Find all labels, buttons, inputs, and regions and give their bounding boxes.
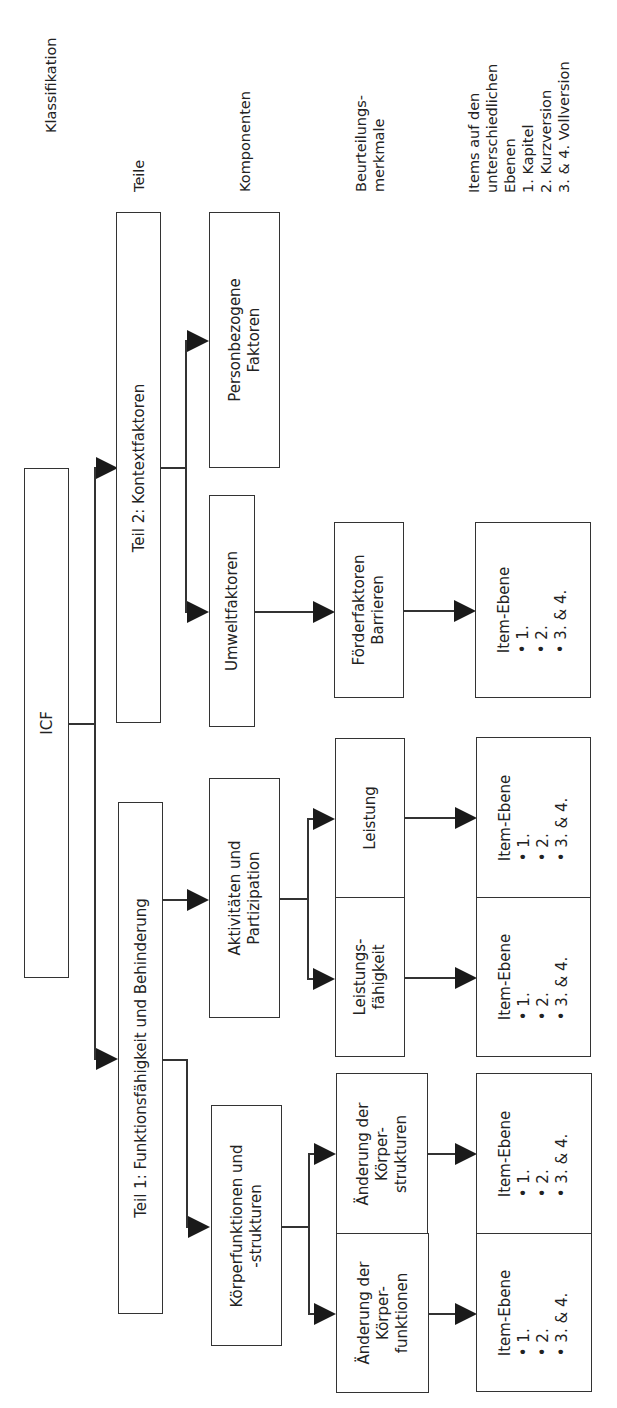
item-level: 1.	[515, 992, 533, 1020]
arrow-icon	[455, 807, 477, 829]
header-beurteilungsmerkmale: Beurteilungs- merkmale	[352, 95, 388, 192]
personbezogene-label: Personbezogene Faktoren	[226, 278, 264, 402]
icf-box: ICF	[24, 468, 69, 978]
arrow-icon	[96, 1048, 118, 1070]
arrow-icon	[313, 601, 335, 623]
arrow-icon	[187, 330, 209, 352]
arrow-icon	[454, 600, 476, 622]
item-level: 3. & 4.	[552, 590, 570, 653]
item-ebene-content: Item-Ebene 1. 2. 3. & 4.	[495, 567, 571, 654]
arrow-icon	[314, 1143, 336, 1165]
item-level: 2.	[534, 1169, 552, 1197]
aenderung-koerperfunktionen-box: Änderung der Körper- funktionen	[336, 1233, 429, 1393]
item-ebene-box-funktionen: Item-Ebene 1. 2. 3. & 4.	[476, 1233, 592, 1392]
item-ebene-title: Item-Ebene	[496, 934, 514, 1021]
arrow-icon	[96, 457, 118, 479]
connector	[404, 610, 454, 612]
connector	[429, 1313, 455, 1315]
leistung-box: Leistung	[335, 738, 405, 898]
header-klassifikation: Klassifikation	[42, 38, 60, 134]
connector	[186, 1059, 188, 1227]
foerderfaktoren-box: Förderfaktoren Barrieren	[334, 522, 404, 698]
item-level: 2.	[534, 1328, 552, 1356]
item-level: 2.	[533, 625, 551, 653]
arrow-icon	[313, 968, 335, 990]
teil2-box: Teil 2: Kontextfaktoren	[116, 212, 161, 723]
arrow-icon	[455, 1303, 477, 1325]
item-ebene-box-leistung: Item-Ebene 1. 2. 3. & 4.	[476, 737, 591, 898]
connector	[94, 467, 96, 1059]
connector	[428, 1153, 455, 1155]
koerperfunktionen-label: Körperfunktionen und -strukturen	[228, 1144, 266, 1307]
umweltfaktoren-box: Umweltfaktoren	[209, 495, 255, 727]
connector	[282, 1226, 309, 1228]
item-level: 3. & 4.	[553, 1292, 571, 1355]
koerperfunktionen-strukturen-box: Körperfunktionen und -strukturen	[211, 1105, 282, 1346]
aktivitaeten-partizipation-box: Aktivitäten und Partizipation	[209, 778, 280, 1018]
arrow-icon	[313, 808, 335, 830]
item-ebene-content: Item-Ebene 1. 2. 3. & 4.	[496, 1110, 572, 1197]
connector	[163, 899, 187, 901]
item-level: 3. & 4.	[553, 797, 571, 860]
item-level: 3. & 4.	[553, 957, 571, 1020]
connector	[280, 898, 308, 900]
arrow-icon	[188, 1216, 210, 1238]
item-level: 2.	[534, 992, 552, 1020]
item-level: 1.	[514, 625, 532, 653]
connector	[69, 723, 94, 725]
connector	[255, 611, 313, 613]
item-level: 2.	[534, 833, 552, 861]
leistung-label: Leistung	[361, 786, 380, 850]
arrow-icon	[455, 1143, 477, 1165]
item-level: 1.	[515, 833, 533, 861]
item-ebene-content: Item-Ebene 1. 2. 3. & 4.	[496, 934, 572, 1021]
item-level: 1.	[515, 1328, 533, 1356]
teil2-label: Teil 2: Kontextfaktoren	[129, 383, 148, 551]
item-ebene-content: Item-Ebene 1. 2. 3. & 4.	[496, 774, 572, 861]
item-ebene-box-umwelt: Item-Ebene 1. 2. 3. & 4.	[475, 522, 591, 698]
leistungsfaehigkeit-label: Leistungs- fähigkeit	[351, 939, 389, 1016]
connector	[185, 340, 187, 612]
item-ebene-title: Item-Ebene	[496, 1110, 514, 1197]
header-items: Items auf den unterschiedlichen Ebenen 1…	[465, 61, 573, 193]
connector	[308, 1153, 310, 1314]
foerderfaktoren-label: Förderfaktoren Barrieren	[350, 555, 388, 666]
arrow-icon	[187, 889, 209, 911]
item-ebene-box-strukturen: Item-Ebene 1. 2. 3. & 4.	[476, 1073, 592, 1234]
item-ebene-title: Item-Ebene	[495, 567, 513, 654]
personbezogene-faktoren-box: Personbezogene Faktoren	[209, 212, 280, 468]
umweltfaktoren-label: Umweltfaktoren	[223, 551, 242, 671]
header-teile: Teile	[130, 160, 148, 192]
connector	[405, 817, 455, 819]
item-level: 1.	[515, 1169, 533, 1197]
arrow-icon	[314, 1303, 336, 1325]
connector	[163, 1059, 187, 1061]
connector	[307, 818, 309, 979]
aenderung-funktionen-label: Änderung der Körper- funktionen	[354, 1262, 411, 1365]
icf-label: ICF	[37, 711, 56, 735]
connector	[161, 467, 186, 469]
teil1-label: Teil 1: Funktionsfähigkeit und Behinderu…	[131, 898, 150, 1218]
aenderung-koerperstrukturen-box: Änderung der Körper- strukturen	[336, 1073, 428, 1234]
connector	[405, 977, 455, 979]
arrow-icon	[455, 967, 477, 989]
item-ebene-title: Item-Ebene	[496, 774, 514, 861]
teil1-box: Teil 1: Funktionsfähigkeit und Behinderu…	[118, 802, 163, 1314]
header-komponenten: Komponenten	[236, 91, 254, 192]
item-ebene-content: Item-Ebene 1. 2. 3. & 4.	[496, 1269, 572, 1356]
leistungsfaehigkeit-box: Leistungs- fähigkeit	[335, 897, 405, 1057]
item-ebene-title: Item-Ebene	[496, 1269, 514, 1356]
aenderung-strukturen-label: Änderung der Körper- strukturen	[354, 1102, 411, 1205]
arrow-icon	[187, 601, 209, 623]
aktivitaeten-label: Aktivitäten und Partizipation	[226, 840, 264, 955]
item-level: 3. & 4.	[553, 1133, 571, 1196]
item-ebene-box-leistungsfaehigkeit: Item-Ebene 1. 2. 3. & 4.	[476, 897, 591, 1057]
